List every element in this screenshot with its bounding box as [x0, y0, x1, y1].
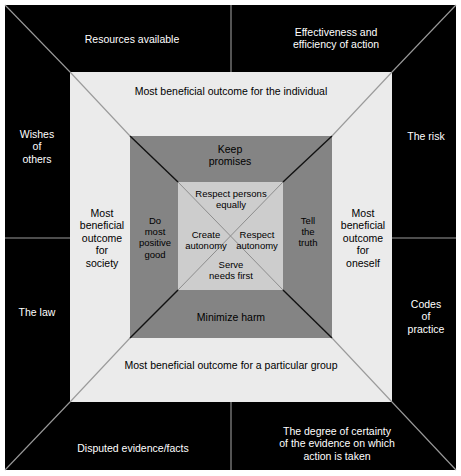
label-codes-of-practice: Codes of practice	[396, 298, 456, 335]
label-minimize-harm: Minimize harm	[160, 311, 302, 323]
label-degree-of-certainty: The degree of certainty of the evidence …	[246, 425, 428, 462]
label-outcome-particular-group: Most beneficial outcome for a particular…	[80, 359, 382, 371]
label-effectiveness-efficiency: Effectiveness and efficiency of action	[248, 26, 424, 51]
label-outcome-oneself: Most beneficial outcome for oneself	[336, 207, 390, 269]
label-wishes-of-others: Wishes of others	[8, 128, 66, 165]
label-respect-autonomy: Respect autonomy	[231, 229, 283, 251]
label-the-law: The law	[8, 306, 66, 318]
label-the-risk: The risk	[396, 130, 456, 142]
label-respect-persons-equally: Respect persons equally	[184, 188, 278, 210]
label-do-most-positive-good: Do most positive good	[134, 215, 176, 260]
label-resources-available: Resources available	[48, 33, 216, 45]
label-outcome-society: Most beneficial outcome for society	[76, 207, 128, 269]
diagram-canvas: Resources available Effectiveness and ef…	[0, 0, 461, 476]
label-tell-the-truth: Tell the truth	[288, 215, 328, 249]
label-serve-needs-first: Serve needs first	[186, 259, 276, 281]
label-create-autonomy: Create autonomy	[180, 229, 232, 251]
label-keep-promises: Keep promises	[180, 143, 280, 168]
label-outcome-individual: Most beneficial outcome for the individu…	[80, 85, 382, 97]
label-disputed-evidence-facts: Disputed evidence/facts	[48, 442, 218, 454]
